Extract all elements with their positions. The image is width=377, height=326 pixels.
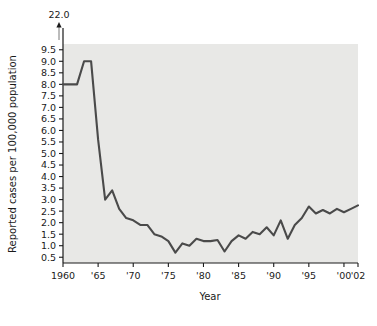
y-axis-tick-label: 3.0 [41, 194, 56, 205]
y-axis-tick-label: 8.5 [41, 67, 56, 78]
y-axis-tick-label: 7.0 [41, 102, 56, 113]
x-axis-tick-label: '65 [91, 270, 106, 281]
chart-container: 0.51.01.52.02.53.03.54.04.55.05.56.06.57… [0, 0, 377, 326]
line-chart: 0.51.01.52.02.53.03.54.04.55.05.56.06.57… [0, 0, 377, 326]
y-axis-tick-label: 4.5 [41, 159, 56, 170]
y-axis-tick-label: 5.5 [41, 136, 56, 147]
x-axis-tick-label: '95 [301, 270, 316, 281]
y-axis-tick-label: 5.0 [41, 148, 56, 159]
y-axis-break-label: 22.0 [48, 9, 69, 20]
x-axis-tick-label: '00 [337, 270, 352, 281]
x-axis-tick-labels: 1960'65'70'75'80'85'90'95'00'02 [51, 270, 365, 281]
y-axis-tick-label: 1.0 [41, 240, 56, 251]
x-axis-tick-label: 1960 [51, 270, 75, 281]
y-axis-tick-label: 9.0 [41, 56, 56, 67]
axis-break-arrow [56, 22, 63, 44]
x-axis-tick-label: '75 [161, 270, 176, 281]
y-axis-tick-label: 3.5 [41, 182, 56, 193]
y-axis-tick-label: 9.5 [41, 44, 56, 55]
y-axis-tick-label: 4.0 [41, 171, 56, 182]
y-axis-tick-label: 1.5 [41, 229, 56, 240]
x-axis-tick-label: '90 [266, 270, 281, 281]
y-axis-tick-label: 2.0 [41, 217, 56, 228]
plot-background [63, 44, 358, 263]
y-axis-title: Reported cases per 100,000 population [7, 55, 18, 253]
y-axis-tick-labels: 0.51.01.52.02.53.03.54.04.55.05.56.06.57… [41, 44, 56, 262]
x-axis-tick-label: '80 [196, 270, 211, 281]
y-axis-tick-label: 7.5 [41, 90, 56, 101]
x-axis-tick-label: '70 [126, 270, 141, 281]
y-axis-tick-label: 2.5 [41, 206, 56, 217]
y-axis-tick-label: 8.0 [41, 79, 56, 90]
y-axis-tick-label: 6.0 [41, 125, 56, 136]
x-axis-tick-label: '02 [351, 270, 366, 281]
y-axis-tick-label: 0.5 [41, 252, 56, 263]
x-axis-tick-label: '85 [231, 270, 246, 281]
y-axis-tick-label: 6.5 [41, 113, 56, 124]
x-axis-title: Year [198, 291, 221, 302]
